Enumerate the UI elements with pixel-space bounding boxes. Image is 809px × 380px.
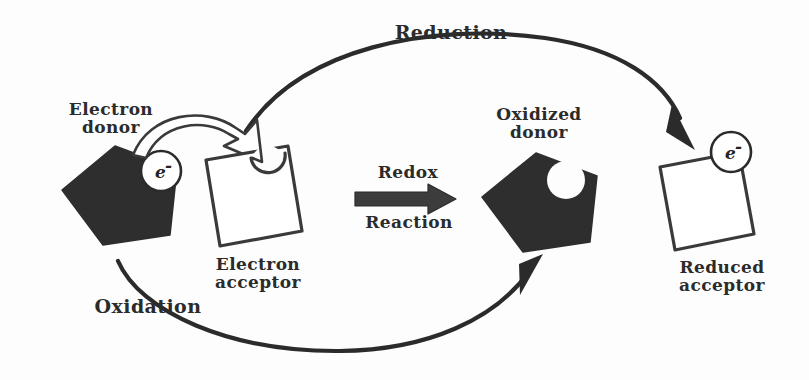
label-electron-donor: Electron donor [46,100,176,137]
label-reduction: Reduction [371,22,531,43]
reduction-arc-arrow [246,34,695,150]
diagram-canvas: e - e - [0,0,809,380]
label-electron-acceptor: Electron acceptor [193,255,323,292]
oxidized-donor-pentagon [482,153,597,252]
label-reaction: Reaction [355,213,463,231]
label-oxidized-donor: Oxidized donor [474,105,604,142]
label-oxidation: Oxidation [68,296,228,317]
electron-badge-acceptor: e - [711,132,751,172]
redox-diagram: e - e - Electron do [0,0,809,380]
label-redox: Redox [360,163,456,181]
electron-charge-donor: - [165,155,172,175]
label-reduced-acceptor: Reduced acceptor [657,258,787,295]
redox-reaction-arrow [355,184,456,214]
electron-acceptor-square [206,146,302,246]
electron-charge-acceptor: - [735,136,742,156]
